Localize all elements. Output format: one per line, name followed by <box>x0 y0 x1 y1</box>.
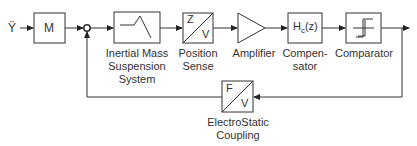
summing-junction <box>84 25 90 31</box>
input-label: Ÿ <box>8 21 16 35</box>
inertial-label-line1: Inertial Mass <box>102 47 172 60</box>
compensator-text: Hc(z) <box>293 20 318 35</box>
amplifier-triangle-icon <box>238 13 265 43</box>
m-block-text: M <box>44 21 54 35</box>
position-label-line1: Position <box>174 47 222 60</box>
comparator-label: Comparator <box>330 47 398 60</box>
comparator-label-line1: Comparator <box>330 47 398 60</box>
compensator-label-line1: Compen- <box>282 47 328 60</box>
coupling-label: ElectroStatic Coupling <box>200 116 276 142</box>
coupling-label-line2: Coupling <box>200 129 276 142</box>
coupling-bottom-text: V <box>241 97 248 109</box>
compensator-h: H <box>293 20 301 32</box>
feedback-line-right <box>254 28 402 97</box>
coupling-top-text: F <box>226 82 233 94</box>
amplifier-label: Amplifier <box>226 47 282 60</box>
compensator-label-line2: sator <box>282 60 328 73</box>
inertial-label-line2: Suspension <box>102 60 172 73</box>
inertial-label: Inertial Mass Suspension System <box>102 47 172 86</box>
inertial-block <box>114 12 160 43</box>
inertial-curve-icon <box>120 16 151 38</box>
compensator-suffix: (z) <box>305 20 318 32</box>
inertial-label-line3: System <box>102 73 172 86</box>
amplifier-label-line1: Amplifier <box>226 47 282 60</box>
comparator-hysteresis-icon <box>353 19 374 37</box>
position-label-line2: Sense <box>174 60 222 73</box>
position-sense-top-text: Z <box>187 13 194 25</box>
position-sense-bottom-text: V <box>202 28 209 40</box>
position-sense-label: Position Sense <box>174 47 222 73</box>
compensator-label: Compen- sator <box>282 47 328 73</box>
coupling-label-line1: ElectroStatic <box>200 116 276 129</box>
